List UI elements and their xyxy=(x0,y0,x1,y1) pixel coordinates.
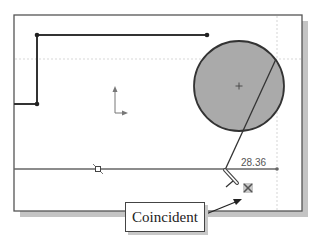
sketch-endpoint[interactable] xyxy=(35,33,40,38)
dimension-value: 28.36 xyxy=(241,157,266,168)
sketch-endpoint[interactable] xyxy=(275,167,279,171)
sketch-endpoint[interactable] xyxy=(205,33,210,38)
coincident-callout-label: Coincident xyxy=(125,202,205,232)
sketch-endpoint[interactable] xyxy=(35,102,40,107)
coincident-relation-icon xyxy=(243,183,253,193)
